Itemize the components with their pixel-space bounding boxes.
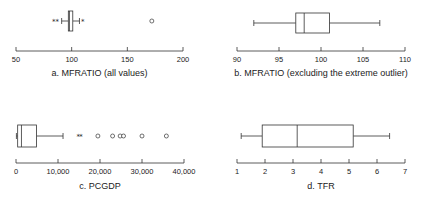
x-tick-label: 105 — [357, 55, 370, 64]
x-tick-label: 90 — [233, 55, 241, 64]
x-tick-label: 30,000 — [131, 167, 154, 176]
x-tick-label: 6 — [375, 167, 379, 176]
iqr-box — [296, 13, 330, 33]
outlier-star-marker: * — [81, 18, 85, 26]
outlier-circle-marker — [122, 134, 126, 138]
outlier-circle-marker — [164, 134, 168, 138]
iqr-box — [68, 11, 72, 31]
x-tick-label: 110 — [399, 55, 411, 64]
boxplot-svg: 9095100105110b. MFRATIO (excluding the e… — [212, 0, 425, 101]
iqr-box — [262, 125, 353, 147]
x-tick-label: 95 — [275, 55, 283, 64]
outlier-circle-marker — [140, 134, 144, 138]
x-tick-label: 10,000 — [47, 167, 70, 176]
x-tick-label: 5 — [347, 167, 351, 176]
x-tick-label: 4 — [319, 167, 323, 176]
panel-b-mfratio-excluding-outlier: 9095100105110b. MFRATIO (excluding the e… — [212, 0, 425, 101]
x-tick-label: 200 — [177, 55, 190, 64]
x-tick-label: 1 — [235, 167, 239, 176]
x-tick-label: 150 — [121, 55, 134, 64]
x-tick-label: 100 — [315, 55, 328, 64]
x-tick-label: 100 — [65, 55, 78, 64]
chart-caption: b. MFRATIO (excluding the extreme outlie… — [234, 68, 407, 78]
panel-d-tfr: 1234567d. TFR — [212, 101, 425, 202]
boxplot-svg: 1234567d. TFR — [212, 101, 425, 202]
x-tick-label: 3 — [291, 167, 295, 176]
boxplot-svg: 010,00020,00030,00040,000c. PCGDP** — [0, 101, 212, 202]
outlier-star-marker: * — [55, 18, 59, 26]
outlier-star-marker: * — [79, 133, 83, 141]
x-tick-label: 7 — [403, 167, 407, 176]
outlier-circle-marker — [111, 134, 115, 138]
iqr-box — [18, 125, 37, 147]
chart-caption: c. PCGDP — [79, 181, 121, 191]
x-tick-label: 50 — [12, 55, 20, 64]
x-tick-label: 2 — [263, 167, 267, 176]
chart-caption: a. MFRATIO (all values) — [52, 68, 148, 78]
x-tick-label: 40,000 — [173, 167, 196, 176]
panel-a-mfratio-all: 50100150200a. MFRATIO (all values)*** — [0, 0, 212, 101]
x-tick-label: 0 — [14, 167, 18, 176]
panel-c-pcgdp: 010,00020,00030,00040,000c. PCGDP** — [0, 101, 212, 202]
outlier-circle-marker — [96, 134, 100, 138]
outlier-circle-marker — [150, 19, 154, 23]
x-tick-label: 20,000 — [89, 167, 112, 176]
boxplot-svg: 50100150200a. MFRATIO (all values)*** — [0, 0, 212, 101]
chart-caption: d. TFR — [307, 181, 335, 191]
